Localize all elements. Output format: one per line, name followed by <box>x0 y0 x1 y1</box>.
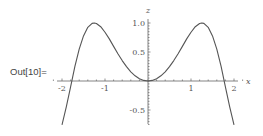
x-tick-label: 1 <box>188 84 193 93</box>
x-tick-label: -1 <box>101 84 109 93</box>
x-tick-label: 2 <box>231 84 236 93</box>
z-axis-label: z <box>145 6 151 15</box>
z-tick-label: 1.0 <box>132 19 145 28</box>
plot-axes: -2-1121.00.5-0.5 <box>53 19 242 125</box>
z-tick-label: -0.5 <box>130 106 145 115</box>
x-axis-label: x <box>246 77 251 86</box>
plot: -2-1121.00.5-0.5 x z <box>0 0 263 136</box>
x-tick-label: -2 <box>58 84 66 93</box>
z-tick-label: 0.5 <box>132 48 145 57</box>
